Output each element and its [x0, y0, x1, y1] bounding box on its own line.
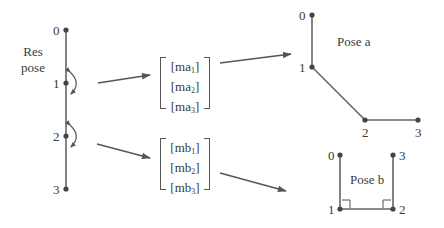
rest-joint-label-0: 0	[53, 24, 60, 37]
pose-a-joint-label-2: 2	[362, 126, 369, 139]
diagram-canvas	[0, 0, 444, 228]
right-angle-marker-1	[342, 200, 350, 208]
pose-b-joint-label-0: 0	[328, 149, 335, 162]
pose-a-joint-2	[362, 117, 367, 122]
arrow-rest-to-matrix-b	[97, 144, 150, 158]
rest-pose-label: Res pose	[18, 44, 48, 76]
rotation-arrow-joint-2	[70, 125, 76, 147]
matrix-a-row-2: [ma2]	[160, 79, 210, 99]
rotation-arrow-joint-1	[70, 72, 76, 94]
rest-joint-1	[63, 80, 68, 85]
rest-pose-label-line2: pose	[18, 60, 48, 76]
pose-a-joint-1	[309, 64, 314, 69]
rest-joint-3	[63, 186, 68, 191]
pose-b-joint-0	[337, 152, 342, 157]
pose-a-joint-label-1: 1	[299, 61, 306, 74]
pose-b-joint-label-1: 1	[328, 203, 335, 216]
matrix-a-row-1: [ma1]	[160, 59, 210, 79]
pose-a-title: Pose a	[337, 35, 371, 48]
arrow-matrix-b-to-pose-b	[220, 173, 286, 191]
rest-joint-0	[63, 27, 68, 32]
matrix-b-row-2: [mb2]	[160, 160, 210, 180]
pose-a-joint-label-3: 3	[415, 126, 422, 139]
matrix-a: [ma1] [ma2] [ma3]	[160, 57, 210, 109]
rest-joint-label-1: 1	[53, 77, 60, 90]
pose-b-joint-label-3: 3	[399, 149, 406, 162]
matrix-b-row-3: [mb3]	[160, 180, 210, 200]
arrow-matrix-a-to-pose-a	[220, 54, 291, 63]
arrow-rest-to-matrix-a	[98, 75, 150, 83]
pose-b-joint-1	[337, 206, 342, 211]
rest-joint-2	[63, 133, 68, 138]
rest-joint-label-3: 3	[53, 183, 60, 196]
pose-b-joint-2	[390, 206, 395, 211]
pose-b-title: Pose b	[350, 173, 384, 186]
matrix-b-row-1: [mb1]	[160, 140, 210, 160]
pose-a-chain	[309, 12, 420, 122]
rest-pose-label-line1: Res	[18, 44, 48, 60]
pose-a-joint-3	[415, 117, 420, 122]
right-angle-marker-2	[383, 200, 391, 208]
matrix-b: [mb1] [mb2] [mb3]	[160, 138, 210, 190]
pose-a-joint-label-0: 0	[299, 9, 306, 22]
pose-a-joint-0	[309, 12, 314, 17]
rest-pose-chain	[63, 27, 76, 191]
matrix-a-row-3: [ma3]	[160, 99, 210, 119]
rest-joint-label-2: 2	[53, 130, 60, 143]
pose-b-joint-label-2: 2	[399, 203, 406, 216]
pose-b-joint-3	[390, 152, 395, 157]
